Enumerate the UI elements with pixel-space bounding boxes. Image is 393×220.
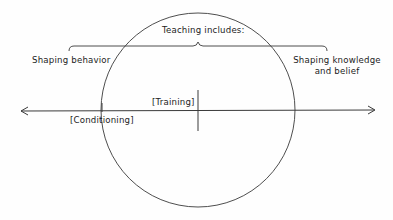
shaping-knowledge-label: Shaping knowledge and belief: [287, 55, 387, 76]
title-label: Teaching includes:: [162, 25, 245, 35]
shaping-knowledge-line2: and belief: [287, 66, 387, 76]
brace: [69, 42, 327, 51]
shaping-knowledge-line1: Shaping knowledge: [287, 55, 387, 65]
conditioning-label: [Conditioning]: [70, 115, 134, 125]
diagram-canvas: Teaching includes: Shaping behavior Shap…: [0, 0, 393, 220]
shaping-behavior-label: Shaping behavior: [32, 55, 111, 65]
training-label: [Training]: [152, 97, 195, 107]
